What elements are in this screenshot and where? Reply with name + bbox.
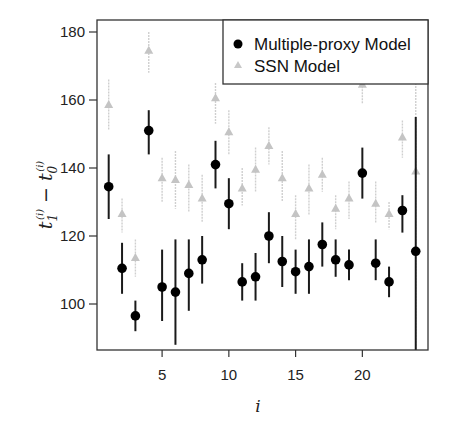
x-axis-title: i — [255, 396, 260, 416]
mp-circle-marker — [117, 264, 127, 274]
mp-circle-marker — [358, 168, 368, 178]
mp-circle-marker — [211, 160, 221, 170]
mp-circle-marker — [144, 126, 154, 136]
chart: 5101520 100120140160180 Multiple-proxy M… — [0, 0, 449, 441]
ssn-triangle-marker — [184, 180, 193, 188]
y-axis-title: t1(i)−t0(i) — [34, 161, 60, 230]
ssn-triangle-marker — [158, 173, 167, 181]
mp-circle-marker — [251, 272, 261, 282]
ssn-triangle-marker — [118, 209, 127, 217]
legend-label-multiple-proxy: Multiple-proxy Model — [254, 35, 411, 54]
mp-circle-marker — [277, 257, 287, 267]
mp-circle-marker — [104, 182, 114, 192]
legend: Multiple-proxy Model SSN Model — [223, 20, 428, 84]
mp-circle-marker — [331, 255, 341, 265]
y-tick-label: 160 — [60, 91, 85, 108]
y-tick-label: 120 — [60, 227, 85, 244]
mp-circle-marker — [384, 277, 394, 287]
x-tick-label: 5 — [158, 366, 166, 383]
mp-circle-marker — [224, 199, 234, 209]
ssn-triangle-marker — [224, 127, 233, 135]
ssn-triangle-marker — [251, 165, 260, 173]
ssn-triangle-marker — [318, 170, 327, 178]
x-tick-label: 20 — [354, 366, 371, 383]
svg-text:t1(i)−t0(i): t1(i)−t0(i) — [34, 161, 60, 230]
mp-circle-marker — [398, 206, 408, 216]
y-tick-label: 180 — [60, 23, 85, 40]
mp-circle-marker — [237, 277, 247, 287]
mp-circle-marker — [318, 240, 328, 250]
x-tick-label: 10 — [221, 366, 238, 383]
x-tick-label: 15 — [287, 366, 304, 383]
mp-circle-marker — [197, 255, 207, 265]
ssn-triangle-marker — [398, 132, 407, 140]
mp-circle-marker — [157, 282, 167, 292]
mp-circle-marker — [184, 269, 194, 279]
ssn-triangle-marker — [144, 46, 153, 54]
mp-circle-marker — [411, 247, 421, 257]
ssn-triangle-marker — [278, 173, 287, 181]
ssn-triangle-marker — [371, 199, 380, 207]
mp-circle-marker — [344, 260, 354, 270]
ssn-triangle-marker — [291, 209, 300, 217]
ssn-triangle-marker — [304, 183, 313, 191]
ssn-triangle-marker — [331, 204, 340, 212]
ssn-triangle-marker — [238, 183, 247, 191]
ssn-triangle-marker — [171, 175, 180, 183]
mp-circle-marker — [171, 287, 181, 297]
ssn-triangle-marker — [385, 209, 394, 217]
mp-circle-marker — [371, 258, 381, 268]
legend-circle-icon — [234, 40, 243, 49]
mp-circle-marker — [304, 262, 314, 272]
y-axis: 100120140160180 — [60, 23, 97, 312]
ssn-triangle-marker — [264, 141, 273, 149]
ssn-triangle-marker — [345, 194, 354, 202]
y-tick-label: 140 — [60, 159, 85, 176]
mp-circle-marker — [131, 311, 141, 321]
ssn-triangle-marker — [211, 93, 220, 101]
y-tick-label: 100 — [60, 295, 85, 312]
ssn-triangle-marker — [131, 253, 140, 261]
mp-circle-marker — [264, 231, 274, 241]
legend-label-ssn: SSN Model — [254, 57, 340, 76]
mp-circle-marker — [291, 267, 301, 277]
series-multiple-proxy-model — [104, 110, 421, 350]
x-axis: 5101520 — [158, 350, 371, 383]
ssn-triangle-marker — [198, 194, 207, 202]
ssn-triangle-marker — [104, 100, 113, 108]
